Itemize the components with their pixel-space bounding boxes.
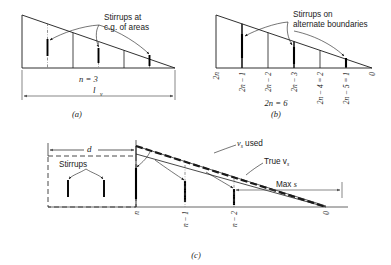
svg-text:True vs: True vs [264, 157, 289, 167]
panel-c-axis-label-0: n [132, 211, 141, 215]
panel-b-axis-label-5: 2n − 5 = 1 [342, 72, 351, 104]
panel-c-axis-label-1: n − 1 [181, 211, 190, 227]
panel-b-count-label: 2n = 6 [265, 98, 289, 108]
panel-b-caption: (b) [271, 109, 281, 119]
panel-a-dimension-label: l [93, 85, 96, 95]
panel-b-axis-label-4: 2n − 4 = 2 [316, 72, 325, 104]
panel-c-max-s-ital: s [294, 180, 297, 189]
panel-c-detail-stirrups [68, 180, 104, 197]
panel-c-true-vs-callout: True vs [246, 157, 289, 175]
svg-text:Max s: Max s [276, 180, 297, 189]
panel-b-callout-line2: alternate boundaries [293, 20, 368, 29]
panel-a-caption: (a) [72, 109, 82, 119]
panel-c-true-vs-sub: s [287, 161, 289, 167]
panel-b-axis-label-0: 2n [212, 72, 221, 80]
panel-a-dimension-sub: v [100, 91, 103, 97]
panel-a: Stirrups at c.g. of areas n = 3 l v (a) [22, 13, 175, 119]
panel-c-axis-labels: n n − 1 n − 2 0 [132, 211, 331, 227]
panel-c-upper-line [136, 146, 326, 206]
panel-c-station-lines [185, 165, 234, 207]
figure-svg: Stirrups at c.g. of areas n = 3 l v (a) [0, 0, 391, 265]
panel-c-axis-label-2: n − 2 [230, 211, 239, 227]
panel-c-d-label: d [87, 144, 92, 154]
panel-b-stirrup-marks [242, 34, 346, 67]
panel-c-vs-used-callout: vs used [214, 139, 263, 153]
figure-stirrup-spacing: Stirrups at c.g. of areas n = 3 l v (a) [0, 0, 391, 265]
panel-b-axis-labels: 2n 2n − 1 2n − 2 2n − 3 2n − 4 = 2 2n − … [212, 72, 377, 104]
panel-c-vs-used-tail: used [243, 139, 263, 148]
panel-c-stirrups-leaders [69, 169, 103, 179]
panel-b-axis-label-3: 2n − 3 [290, 72, 299, 92]
panel-a-count-label-group: n = 3 [79, 74, 98, 84]
panel-b-callout-line1: Stirrups on [293, 10, 333, 19]
panel-b-axis-label-1: 2n − 1 [238, 72, 247, 92]
panel-b: Stirrups on alternate boundaries 2n 2n −… [212, 10, 377, 119]
panel-b-callout-text: Stirrups on alternate boundaries [293, 10, 368, 29]
panel-c-true-vs-label: True v [264, 157, 288, 166]
panel-c: Stirrups d vs used [48, 139, 348, 260]
panel-c-caption: (c) [191, 250, 201, 260]
panel-c-d-dimension: d [48, 140, 136, 156]
panel-b-axis-label-6: 0 [368, 72, 377, 76]
panel-a-callout-text: Stirrups at c.g. of areas [104, 13, 149, 32]
panel-a-callout-line1: Stirrups at [104, 13, 142, 22]
panel-c-max-s-label: Max [276, 180, 294, 189]
panel-a-callout-line2: c.g. of areas [104, 23, 149, 32]
panel-a-count-label: n = 3 [79, 74, 98, 84]
svg-text:vs used: vs used [237, 139, 263, 149]
panel-c-axis-label-3: 0 [322, 211, 331, 215]
panel-b-axis-label-2: 2n − 2 [264, 72, 273, 92]
panel-a-dimension: l v [22, 70, 175, 100]
panel-c-stirrups-label: Stirrups [59, 160, 87, 169]
